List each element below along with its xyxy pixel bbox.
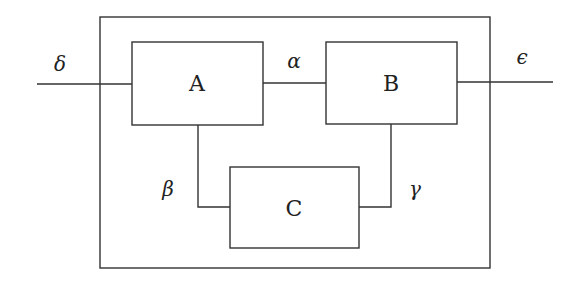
beta-label: β (161, 177, 174, 201)
block-diagram: A B C δ α ϵ β γ (0, 0, 576, 284)
block-c-label: C (286, 196, 303, 221)
alpha-label: α (287, 49, 301, 73)
block-b-label: B (383, 71, 399, 96)
block-a-label: A (188, 71, 206, 96)
delta-label: δ (54, 52, 66, 76)
epsilon-label: ϵ (516, 45, 527, 69)
gamma-label: γ (409, 177, 421, 201)
